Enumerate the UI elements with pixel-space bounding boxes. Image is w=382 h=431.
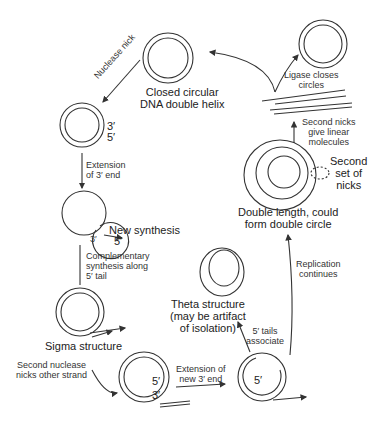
- ligase-circle: [299, 20, 347, 68]
- label-second-nicks-linear: Second nicks give linear molecules: [302, 117, 356, 147]
- label-replication-continues: Replication continues: [296, 259, 341, 279]
- label-theta: Theta structure (may be artifact of isol…: [170, 298, 246, 334]
- sigma-circle: [56, 288, 125, 337]
- arrow-extension-new: [176, 384, 225, 387]
- label-5prime-2: 5′: [152, 375, 160, 387]
- label-ligase: Ligase closes circles: [284, 70, 339, 90]
- label-second-set-nicks: Second set of nicks: [330, 155, 367, 191]
- theta-structure: [200, 248, 244, 296]
- double-length-spiral: [244, 140, 329, 210]
- nicked-circle: [60, 103, 104, 147]
- label-second-nuclease: Second nuclease nicks other strand: [16, 360, 87, 380]
- label-closed-circle: Closed circular DNA double helix: [140, 86, 224, 110]
- label-3prime-2: 3′: [152, 389, 160, 401]
- label-5prime-ns: 5′: [114, 235, 122, 247]
- label-5prime-center: 5′: [254, 374, 262, 386]
- linear-molecules: [262, 90, 352, 114]
- label-tails-associate: 5′ tails associate: [246, 326, 284, 346]
- label-extension-new-3: Extension of new 3′ end: [176, 364, 226, 384]
- arrow-replication-continues: [288, 235, 292, 355]
- label-complementary: Complementary synthesis along 5′ tail: [86, 251, 150, 281]
- label-extension-3: Extension of 3′ end: [86, 160, 126, 180]
- label-3prime-ns: 3′: [90, 234, 97, 244]
- closed-circle: [143, 33, 193, 83]
- label-sigma: Sigma structure: [45, 340, 122, 352]
- label-double-length: Double length, could form double circle: [238, 206, 338, 230]
- tails-circle: [238, 353, 306, 401]
- label-5prime-1: 5′: [107, 131, 115, 143]
- arrow-second-nuclease: [92, 370, 117, 393]
